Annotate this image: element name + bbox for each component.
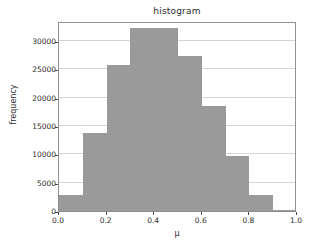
plot-area [58,22,296,212]
y-tick-label-5000: 5000 [37,179,56,188]
histogram-bar [202,106,226,211]
histogram-bar [59,195,83,211]
x-tick-label-0.6: 0.6 [186,216,216,225]
y-tick-label-15000: 15000 [32,122,56,131]
histogram-bar [178,56,202,211]
x-tick-0.8 [248,212,249,215]
x-tick-label-0.2: 0.2 [91,216,121,225]
x-tick-0.4 [153,212,154,215]
x-tick-label-0.0: 0.0 [43,216,73,225]
y-tick-label-20000: 20000 [32,94,56,103]
histogram-figure: histogram 050001000015000200002500030000… [0,0,320,247]
x-tick-label-1.0: 1.0 [281,216,311,225]
y-axis-label: frequency [9,75,18,135]
x-axis-label: μ [58,229,296,238]
x-tick-0.2 [106,212,107,215]
histogram-bar [154,28,178,211]
histogram-bar [226,156,250,211]
y-tick-label-25000: 25000 [32,65,56,74]
histogram-bar [273,210,296,211]
x-tick-label-0.4: 0.4 [138,216,168,225]
x-tick-0.6 [201,212,202,215]
chart-title: histogram [58,6,296,16]
x-tick-1.0 [296,212,297,215]
y-tick-label-10000: 10000 [32,150,56,159]
histogram-bar [249,195,273,211]
y-tick-label-0: 0 [51,207,56,216]
histogram-bar [130,28,154,211]
x-tick-0.0 [58,212,59,215]
histogram-bars [59,23,295,211]
histogram-bar [83,133,107,211]
y-tick-label-30000: 30000 [32,37,56,46]
x-tick-label-0.8: 0.8 [233,216,263,225]
histogram-bar [107,65,131,211]
